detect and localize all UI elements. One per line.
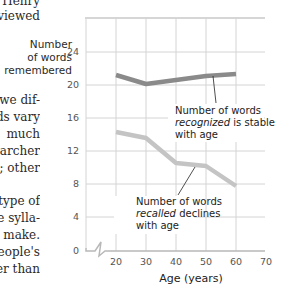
y-tick-labels: 24 20 16 12 8 4 0 <box>67 46 79 256</box>
annotation-line: Number of words <box>175 105 261 116</box>
svg-text:4: 4 <box>73 211 79 222</box>
svg-text:16: 16 <box>67 112 79 123</box>
annotation-italic: recognized <box>175 117 231 128</box>
svg-text:24: 24 <box>67 46 79 57</box>
svg-text:70: 70 <box>260 256 272 267</box>
annotation-leader-recognized <box>213 76 216 103</box>
annotation-line: recognized is stable <box>175 117 275 128</box>
svg-text:20: 20 <box>67 79 79 90</box>
annotation-recalled: Number of words recalled declines with a… <box>136 196 222 231</box>
svg-text:60: 60 <box>230 256 242 267</box>
svg-text:8: 8 <box>73 178 79 189</box>
annotation-line: with age <box>175 129 218 140</box>
svg-text:40: 40 <box>170 256 182 267</box>
annotation-rest: declines <box>176 208 220 219</box>
line-chart: 24 20 16 12 8 4 0 20 30 40 50 60 70 Age … <box>0 0 282 292</box>
svg-text:50: 50 <box>200 256 212 267</box>
annotation-rest: is stable <box>230 117 275 128</box>
x-axis-title: Age (years) <box>159 272 223 285</box>
annotation-line: recalled declines <box>136 208 220 219</box>
svg-text:12: 12 <box>67 145 79 156</box>
annotation-italic: recalled <box>136 208 177 219</box>
svg-text:20: 20 <box>110 256 122 267</box>
annotation-line: Number of words <box>136 196 222 207</box>
svg-text:0: 0 <box>73 245 79 256</box>
annotation-line: with age <box>136 220 179 231</box>
svg-text:30: 30 <box>140 256 152 267</box>
annotation-leader-recalled <box>178 167 195 195</box>
x-tick-labels: 20 30 40 50 60 70 <box>110 256 272 267</box>
